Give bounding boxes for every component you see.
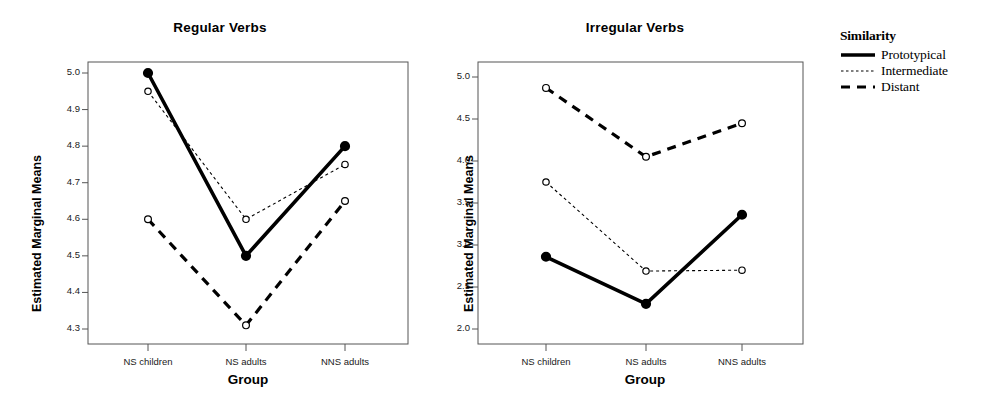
x-tick-label: NS children	[98, 356, 198, 367]
legend-entry-dotted: Intermediate	[840, 62, 1000, 78]
chart-panel-regular-verbs: Regular Verbs 4.34.44.54.64.74.84.95.0NS…	[0, 0, 440, 408]
legend-swatch-dotted-icon	[840, 63, 876, 77]
data-point-marker	[342, 161, 348, 167]
x-axis-title: Group	[188, 372, 308, 387]
y-tick-label: 2.0	[432, 322, 470, 333]
data-point-marker	[643, 153, 650, 160]
data-point-marker	[739, 267, 745, 273]
legend-entry-dashed: Distant	[840, 78, 1000, 94]
y-tick-label: 5.0	[42, 66, 80, 77]
legend-label: Distant	[881, 79, 919, 94]
x-tick-label: NS adults	[596, 356, 696, 367]
data-point-marker	[543, 85, 550, 92]
x-tick-label: NNS adults	[295, 356, 395, 367]
data-point-marker	[642, 300, 650, 308]
legend-swatch-dashed-icon	[840, 79, 876, 93]
legend-label: Prototypical	[881, 47, 946, 62]
data-point-marker	[738, 211, 746, 219]
data-point-marker	[342, 198, 349, 205]
y-tick-label: 4.5	[42, 249, 80, 260]
chart-panel-irregular-verbs: Irregular Verbs 2.02.53.03.54.04.55.0NS …	[440, 0, 830, 408]
series-line-solid	[546, 215, 742, 304]
legend: Similarity PrototypicalIntermediateDista…	[840, 28, 1000, 94]
y-tick-label: 4.3	[42, 322, 80, 333]
legend-entry-solid: Prototypical	[840, 46, 1000, 62]
data-point-marker	[243, 322, 250, 329]
y-tick-label: 4.6	[42, 212, 80, 223]
y-axis-title: Estimated Marginal Means	[462, 155, 476, 312]
series-line-dotted	[546, 182, 742, 271]
data-point-marker	[341, 142, 349, 150]
legend-swatch-solid-icon	[840, 47, 876, 61]
legend-label: Intermediate	[881, 63, 948, 78]
y-tick-label: 4.4	[42, 285, 80, 296]
y-tick-label: 4.9	[42, 103, 80, 114]
x-axis-title: Group	[585, 372, 705, 387]
data-point-marker	[145, 216, 152, 223]
y-tick-label: 4.5	[432, 112, 470, 123]
series-line-solid	[148, 73, 345, 256]
y-tick-label: 5.0	[432, 70, 470, 81]
figure-container: Regular Verbs 4.34.44.54.64.74.84.95.0NS…	[0, 0, 1002, 408]
x-tick-label: NS children	[496, 356, 596, 367]
x-tick-label: NNS adults	[692, 356, 792, 367]
y-tick-label: 4.7	[42, 176, 80, 187]
data-point-marker	[145, 88, 151, 94]
data-point-marker	[243, 216, 249, 222]
legend-title: Similarity	[840, 28, 1000, 44]
plot-area-irregular	[440, 0, 830, 408]
y-tick-label: 4.8	[42, 139, 80, 150]
data-point-marker	[242, 252, 250, 260]
plot-area-regular	[0, 0, 440, 408]
data-point-marker	[739, 120, 746, 127]
data-point-marker	[542, 253, 550, 261]
series-line-dashed	[546, 88, 742, 157]
data-point-marker	[543, 179, 549, 185]
data-point-marker	[643, 268, 649, 274]
series-line-dotted	[148, 91, 345, 219]
data-point-marker	[144, 69, 152, 77]
legend-entries: PrototypicalIntermediateDistant	[840, 46, 1000, 94]
x-tick-label: NS adults	[196, 356, 296, 367]
y-axis-title: Estimated Marginal Means	[30, 155, 44, 312]
